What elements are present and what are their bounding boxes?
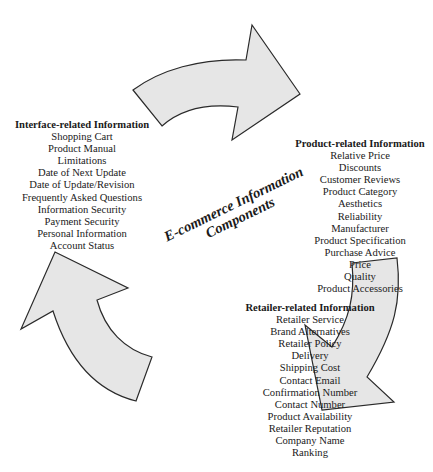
list-item: Information Security: [12, 204, 152, 216]
list-item: Aesthetics: [285, 198, 433, 210]
list-item: Date of Next Update: [12, 167, 152, 179]
list-item: Product Category: [285, 186, 433, 198]
list-item: Ranking: [245, 447, 375, 459]
list-item: Delivery: [245, 350, 375, 362]
list-item: Contact Email: [245, 375, 375, 387]
list-item: Product Specification: [285, 235, 433, 247]
arrow-interface-to-product: [133, 25, 300, 140]
list-item: Shopping Cart: [12, 131, 152, 143]
list-item: Retailer Service: [245, 314, 375, 326]
interface-info-group: Interface-related Information Shopping C…: [12, 119, 152, 252]
retailer-info-group: Retailer-related Information Retailer Se…: [245, 302, 375, 459]
list-item: Account Status: [12, 240, 152, 252]
list-item: Price: [285, 259, 433, 271]
product-info-group: Product-related Information Relative Pri…: [285, 138, 433, 295]
list-item: Frequently Asked Questions: [12, 192, 152, 204]
list-item: Relative Price: [285, 150, 433, 162]
interface-group-title: Interface-related Information: [12, 119, 152, 131]
list-item: Date of Update/Revision: [12, 179, 152, 191]
list-item: Contact Number: [245, 399, 375, 411]
list-item: Product Accessories: [285, 283, 433, 295]
list-item: Product Availability: [245, 411, 375, 423]
list-item: Confirmation Number: [245, 387, 375, 399]
list-item: Product Manual: [12, 143, 152, 155]
retailer-group-title: Retailer-related Information: [245, 302, 375, 314]
list-item: Shipping Cost: [245, 362, 375, 374]
list-item: Quality: [285, 271, 433, 283]
list-item: Manufacturer: [285, 223, 433, 235]
list-item: Payment Security: [12, 216, 152, 228]
list-item: Discounts: [285, 162, 433, 174]
list-item: Reliability: [285, 211, 433, 223]
list-item: Personal Information: [12, 228, 152, 240]
list-item: Retailer Reputation: [245, 423, 375, 435]
list-item: Company Name: [245, 435, 375, 447]
list-item: Retailer Policy: [245, 338, 375, 350]
product-group-title: Product-related Information: [285, 138, 433, 150]
list-item: Purchase Advice: [285, 247, 433, 259]
list-item: Limitations: [12, 155, 152, 167]
arrow-retailer-to-interface: [21, 252, 152, 401]
list-item: Customer Reviews: [285, 174, 433, 186]
list-item: Brand Alternatives: [245, 326, 375, 338]
